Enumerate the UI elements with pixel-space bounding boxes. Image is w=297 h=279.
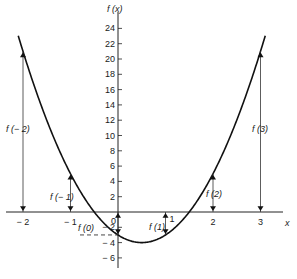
axes: f (x)x: [6, 4, 290, 268]
y-tick-label: − 6: [102, 253, 115, 263]
y-tick-label: 12: [105, 115, 115, 125]
x-tick-label: − 2: [17, 217, 30, 227]
function-value-label: f (0): [78, 223, 94, 233]
y-tick-label: 2: [110, 192, 115, 202]
y-tick-label: 22: [105, 39, 115, 49]
x-tick-label: 3: [258, 217, 263, 227]
y-axis-title: f (x): [107, 4, 123, 14]
y-tick-label: 10: [105, 131, 115, 141]
function-graph: f (x)x − 6− 4− 224681012141618202224− 2−…: [0, 0, 297, 279]
y-tick-label: 20: [105, 54, 115, 64]
y-tick-label: 8: [110, 146, 115, 156]
axis-ticks: − 6− 4− 224681012141618202224− 2− 10123: [17, 23, 263, 263]
arrowhead-up-icon: [258, 52, 264, 57]
arrowhead-down-icon: [210, 206, 216, 211]
x-tick-label: − 1: [64, 217, 77, 227]
arrowhead-down-icon: [258, 206, 264, 211]
y-tick-label: 16: [105, 85, 115, 95]
x-tick-label: 2: [210, 217, 215, 227]
function-value-label: f (− 1): [50, 192, 74, 202]
arrowhead-down-icon: [68, 206, 74, 211]
function-value-label: f (− 2): [6, 124, 30, 134]
x-axis-title: x: [284, 218, 290, 228]
y-tick-label: − 4: [102, 238, 115, 248]
x-tick-label: 1: [170, 214, 175, 224]
arrowhead-up-icon: [20, 52, 26, 57]
y-tick-label: 18: [105, 69, 115, 79]
y-tick-label: 4: [110, 176, 115, 186]
function-value-label: f (1): [149, 222, 165, 232]
y-tick-label: 14: [105, 100, 115, 110]
y-tick-label: 6: [110, 161, 115, 171]
function-value-label: f (3): [252, 124, 268, 134]
function-value-label: f (2): [206, 189, 222, 199]
arrowhead-up-icon: [163, 213, 169, 218]
arrowhead-down-icon: [20, 206, 26, 211]
y-tick-label: 24: [105, 23, 115, 33]
